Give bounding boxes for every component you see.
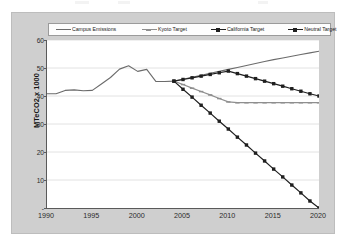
series-marker	[226, 101, 230, 103]
y-tick: 10	[24, 177, 44, 184]
legend-key-marker	[216, 28, 220, 32]
x-tick-label: 2005	[165, 211, 199, 221]
x-tick-label: 1990	[29, 211, 63, 221]
legend-key-icon	[56, 26, 71, 33]
legend-entry-3[interactable]: Neutral Target	[288, 26, 336, 33]
series-marker	[290, 183, 293, 186]
series-marker	[227, 127, 230, 130]
legend-key-line	[56, 29, 71, 30]
y-tick-label: 30	[28, 121, 44, 128]
series-marker	[317, 94, 319, 97]
x-axis-ticks: 1990199520002005201020152020	[46, 211, 318, 223]
x-tick-label: 2000	[120, 211, 154, 221]
series-marker	[181, 78, 184, 81]
chart-container: Campus EmissionsKyoto TargetCalifornia T…	[0, 0, 344, 248]
x-tick-label: 2015	[256, 211, 290, 221]
series-marker	[236, 72, 239, 75]
series-marker	[263, 79, 266, 82]
series-marker	[263, 159, 266, 162]
legend-label: Kyoto Target	[158, 26, 187, 33]
y-tick-label: 50	[28, 65, 44, 72]
series-marker	[209, 73, 212, 76]
y-tick: 60	[24, 37, 44, 44]
series-marker	[299, 102, 303, 104]
scan-artifact	[75, 1, 89, 4]
y-tick-label: 40	[28, 93, 44, 100]
series-marker	[281, 102, 285, 104]
legend-key-icon	[211, 26, 226, 33]
y-tick: 20	[24, 149, 44, 156]
series-marker	[199, 91, 203, 93]
series-line	[47, 51, 319, 94]
series-1	[172, 80, 319, 103]
series-marker	[190, 76, 193, 79]
series-marker	[317, 206, 319, 208]
series-marker	[317, 102, 319, 104]
legend-label: Campus Emissions	[72, 26, 116, 33]
legend-entry-2[interactable]: California Target	[211, 26, 264, 33]
series-marker	[245, 74, 248, 77]
series-marker	[218, 120, 221, 123]
series-marker	[254, 77, 257, 80]
legend-key-marker	[293, 28, 297, 32]
series-line	[174, 81, 319, 103]
series-marker	[281, 85, 284, 88]
series-marker	[172, 79, 175, 82]
legend-key-icon	[288, 26, 303, 33]
series-marker	[208, 94, 212, 96]
legend-key-marker	[146, 29, 151, 31]
series-marker	[199, 104, 202, 107]
series-marker	[218, 71, 221, 74]
series-marker	[227, 69, 230, 72]
series-marker	[253, 102, 257, 104]
series-marker	[271, 102, 275, 104]
series-marker	[244, 102, 248, 104]
series-marker	[272, 82, 275, 85]
scan-artifact	[118, 1, 130, 4]
series-marker	[181, 88, 184, 91]
scan-artifact	[258, 1, 268, 4]
series-0	[47, 51, 319, 94]
series-marker	[254, 151, 257, 154]
series-marker	[236, 135, 239, 138]
series-marker	[209, 111, 212, 114]
legend-label: California Target	[227, 26, 264, 33]
series-marker	[281, 175, 284, 178]
y-tick-label: 20	[28, 149, 44, 156]
series-marker	[290, 102, 294, 104]
y-axis-ticks: 605040302010-	[24, 40, 44, 208]
x-tick-label: 2010	[210, 211, 244, 221]
x-tick-label: 2020	[301, 211, 335, 221]
legend-entry-1[interactable]: Kyoto Target	[142, 26, 187, 33]
series-marker	[299, 191, 302, 194]
x-tick-label: 1995	[74, 211, 108, 221]
y-tick: 40	[24, 93, 44, 100]
y-tick: 30	[24, 121, 44, 128]
y-tick: 50	[24, 65, 44, 72]
plot-svg	[47, 40, 319, 208]
series-marker	[190, 87, 194, 89]
legend-entry-0[interactable]: Campus Emissions	[56, 26, 116, 33]
series-marker	[199, 74, 202, 77]
series-marker	[272, 167, 275, 170]
legend-label: Neutral Target	[304, 26, 336, 33]
chart-legend: Campus EmissionsKyoto TargetCalifornia T…	[48, 23, 331, 36]
series-marker	[299, 90, 302, 93]
series-2	[172, 69, 319, 97]
series-3	[172, 79, 319, 208]
series-marker	[235, 102, 239, 104]
series-marker	[181, 84, 185, 86]
series-marker	[308, 102, 312, 104]
series-marker	[217, 98, 221, 100]
series-marker	[245, 143, 248, 146]
series-marker	[290, 87, 293, 90]
series-marker	[190, 95, 193, 98]
y-tick-label: 60	[28, 37, 44, 44]
series-marker	[308, 92, 311, 95]
series-marker	[262, 102, 266, 104]
series-marker	[308, 199, 311, 202]
legend-key-icon	[142, 26, 157, 33]
plot-area	[46, 40, 319, 209]
y-tick-label: 10	[28, 177, 44, 184]
